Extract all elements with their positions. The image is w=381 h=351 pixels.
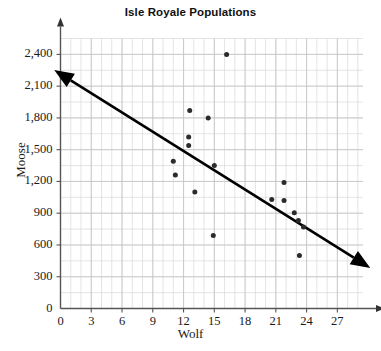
data-point — [282, 198, 287, 203]
data-point — [206, 115, 211, 120]
data-point — [186, 134, 191, 139]
data-point — [297, 253, 302, 258]
data-point — [187, 108, 192, 113]
data-point — [211, 233, 216, 238]
data-point — [269, 197, 274, 202]
axis-ticks — [57, 54, 338, 312]
chart-figure: Isle Royale Populations Moose Wolf 03006… — [0, 0, 381, 351]
axis-lines — [61, 27, 377, 309]
data-point — [173, 173, 178, 178]
data-point — [186, 143, 191, 148]
grid-minor — [61, 39, 364, 309]
grid-major — [61, 39, 364, 309]
data-point — [292, 210, 297, 215]
trend-line — [71, 80, 354, 257]
data-point — [301, 224, 306, 229]
data-point — [192, 190, 197, 195]
data-point — [296, 218, 301, 223]
data-point — [224, 52, 229, 57]
data-point — [212, 163, 217, 168]
scatter-plot-canvas — [0, 0, 381, 351]
data-point — [171, 159, 176, 164]
data-point — [282, 180, 287, 185]
